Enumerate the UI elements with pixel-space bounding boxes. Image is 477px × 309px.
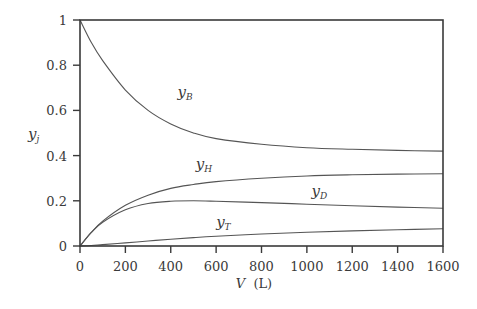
y-tick-label: 0.4 bbox=[46, 149, 67, 164]
x-tick-label: 0 bbox=[76, 259, 84, 274]
x-axis-label: V (L) bbox=[236, 276, 272, 291]
y-axis-label: yj bbox=[27, 125, 39, 144]
x-tick-label: 1600 bbox=[426, 259, 459, 274]
y-tick-label: 0.8 bbox=[46, 58, 67, 73]
x-tick-label: 600 bbox=[204, 259, 229, 274]
x-axis-label-var: V bbox=[236, 276, 247, 291]
x-tick-label: 1400 bbox=[381, 259, 414, 274]
line-chart: 0200400600800100012001400160000.20.40.60… bbox=[0, 0, 477, 309]
series-line-y-d bbox=[80, 201, 443, 246]
y-tick-label: 0.2 bbox=[46, 194, 67, 209]
x-tick-label: 200 bbox=[113, 259, 138, 274]
series-line-y-t bbox=[80, 229, 443, 246]
series-label-y-d: yD bbox=[310, 182, 327, 201]
plot-area bbox=[80, 20, 443, 246]
x-axis-label-unit: (L) bbox=[253, 276, 272, 291]
y-tick-label: 0 bbox=[59, 239, 67, 254]
series-label-y-h: yH bbox=[195, 155, 212, 174]
y-tick-label: 1 bbox=[59, 13, 67, 28]
x-tick-label: 800 bbox=[249, 259, 274, 274]
x-tick-label: 400 bbox=[158, 259, 183, 274]
series-line-y-b bbox=[80, 20, 443, 151]
series-label-y-b: yB bbox=[177, 83, 193, 102]
series-labels: yByHyDyT bbox=[177, 83, 328, 232]
x-tick-label: 1200 bbox=[336, 259, 369, 274]
y-tick-label: 0.6 bbox=[46, 103, 67, 118]
series-label-y-t: yT bbox=[215, 213, 231, 232]
plot-frame bbox=[80, 20, 443, 246]
series-line-y-h bbox=[80, 174, 443, 246]
x-tick-label: 1000 bbox=[290, 259, 323, 274]
